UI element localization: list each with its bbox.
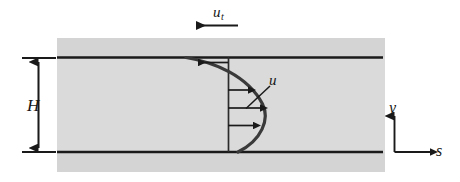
- y-axis-label: y: [389, 100, 396, 116]
- channel-height-label: H: [27, 97, 39, 114]
- fluid-region-fill: [57, 57, 385, 152]
- top-plate-velocity-subscript: t: [221, 11, 224, 22]
- top-plate-velocity-symbol: u: [213, 4, 221, 20]
- diagram-canvas: [0, 0, 460, 182]
- s-axis-label: s: [436, 143, 442, 159]
- velocity-profile-label: u: [269, 73, 277, 88]
- couette-flow-diagram: ut H u y s: [0, 0, 460, 182]
- top-plate-velocity-label: ut: [213, 5, 223, 20]
